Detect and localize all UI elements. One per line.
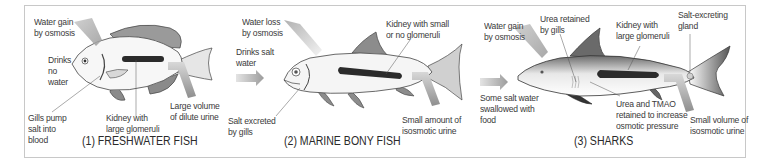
caption-freshwater-fish: (1) FRESHWATER FISH — [82, 134, 198, 148]
label-salt-excreted-gills: Salt excreted by gills — [228, 115, 276, 137]
label-kidney-large-glomeruli-shark: Kidney with large glomeruli — [616, 19, 669, 41]
label-small-volume-isosmotic-urine: Small volume of isosmotic urine — [690, 114, 748, 136]
label-drinks-salt-water: Drinks salt water — [236, 46, 274, 68]
label-water-loss: Water loss by osmosis — [242, 16, 283, 38]
label-water-gain-shark: Water gain by osmosis — [484, 20, 525, 42]
caption-sharks: (3) SHARKS — [574, 134, 633, 148]
label-gills-pump-salt: Gills pump salt into blood — [28, 112, 67, 145]
label-water-gain-freshwater: Water gain by osmosis — [34, 16, 75, 38]
label-urea-tmao: Urea and TMAO retained to increase osmot… — [616, 98, 688, 131]
label-small-amount-isosmotic-urine: Small amount of isosmotic urine — [402, 114, 461, 136]
kidney-shape — [122, 56, 164, 62]
label-salt-excreting-gland: Salt-excreting gland — [678, 9, 728, 31]
label-kidney-large-glomeruli-freshwater: Kidney with large glomeruli — [106, 112, 159, 134]
label-drinks-no-water: Drinks no water — [48, 54, 71, 87]
caption-marine-bony-fish: (2) MARINE BONY FISH — [284, 134, 401, 148]
label-urea-retained-gills: Urea retained by gills — [540, 13, 589, 35]
label-kidney-small-glomeruli: Kidney with small or no glomeruli — [386, 18, 449, 40]
label-large-volume-dilute-urine: Large volume of dilute urine — [170, 100, 220, 122]
label-salt-water-with-food: Some salt water swallowed with food — [480, 92, 539, 125]
